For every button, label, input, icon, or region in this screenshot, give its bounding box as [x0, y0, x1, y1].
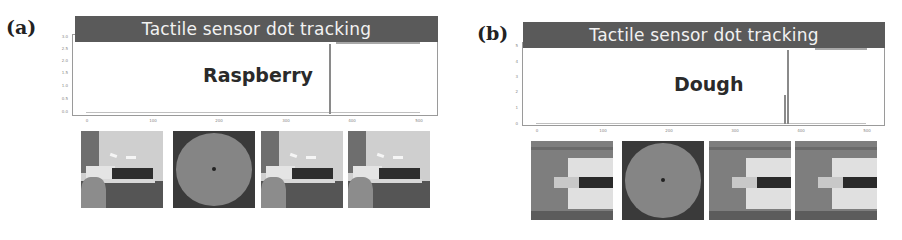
y-tick: 2.0	[58, 58, 68, 63]
x-tick: 0	[77, 118, 97, 123]
chart-banner-title: Tactile sensor dot tracking	[75, 16, 438, 42]
chart-banner-title: Tactile sensor dot tracking	[523, 22, 885, 48]
gripper-approach-photo	[81, 131, 163, 208]
gripper-approach-photo	[531, 141, 613, 220]
spike	[784, 95, 786, 124]
x-tick: 500	[857, 128, 877, 133]
x-tick: 100	[593, 128, 613, 133]
x-tick: 300	[276, 118, 296, 123]
panel-label-a: (a)	[6, 16, 36, 38]
object-label: Dough	[674, 73, 743, 95]
spike	[787, 50, 789, 124]
y-tick: 0.0	[58, 109, 68, 114]
x-tick: 100	[143, 118, 163, 123]
baseline	[536, 123, 866, 124]
panel-label-b: (b)	[477, 22, 508, 44]
y-tick: 1	[508, 105, 518, 110]
y-tick: 0.5	[58, 96, 68, 101]
gripper-release-photo	[348, 131, 430, 208]
object-label: Raspberry	[203, 64, 313, 86]
x-tick: 200	[659, 128, 679, 133]
tactile-sensor-image	[622, 141, 704, 220]
y-tick: 0	[508, 121, 518, 126]
x-tick: 200	[209, 118, 229, 123]
gripper-contact-photo	[709, 141, 791, 220]
y-tick: 4	[508, 59, 518, 64]
y-tick: 5	[508, 43, 518, 48]
x-tick: 300	[725, 128, 745, 133]
y-tick: 2	[508, 89, 518, 94]
x-tick: 500	[409, 118, 429, 123]
y-tick: 3	[508, 74, 518, 79]
x-tick: 0	[527, 128, 547, 133]
post-contact-line	[815, 48, 867, 50]
spike	[329, 44, 331, 114]
x-tick: 400	[342, 118, 362, 123]
y-tick: 1.5	[58, 70, 68, 75]
baseline	[86, 112, 420, 113]
y-tick: 1.0	[58, 83, 68, 88]
post-contact-line	[336, 42, 420, 44]
gripper-release-photo	[795, 141, 877, 220]
tactile-sensor-image	[173, 131, 255, 208]
x-tick: 400	[791, 128, 811, 133]
y-tick: 3.0	[58, 34, 68, 39]
y-tick: 2.5	[58, 46, 68, 51]
gripper-contact-photo	[261, 131, 343, 208]
